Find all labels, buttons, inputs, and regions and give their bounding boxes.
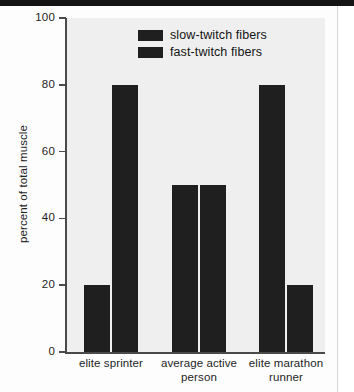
bar xyxy=(112,85,138,352)
y-tick-label-wrap: 0 xyxy=(0,346,55,358)
legend-swatch-icon xyxy=(138,47,163,58)
x-axis-label: elite marathonrunner xyxy=(226,357,346,384)
x-axis-label-line: elite marathon xyxy=(226,357,346,371)
y-axis-title: percent of total muscle xyxy=(17,114,29,254)
page-margin xyxy=(339,6,354,392)
y-tick-mark xyxy=(59,284,66,286)
legend-label: slow-twitch fibers xyxy=(170,29,267,42)
bar-chart-figure: 020406080100 percent of total muscle slo… xyxy=(0,6,337,392)
bar xyxy=(84,285,110,352)
bar xyxy=(200,185,226,352)
legend-item: slow-twitch fibers xyxy=(138,27,267,43)
x-axis-label-line: runner xyxy=(226,371,346,385)
y-tick-mark xyxy=(59,84,66,86)
y-tick-mark xyxy=(59,351,66,353)
bar xyxy=(259,85,285,352)
y-tick-label-wrap: 20 xyxy=(0,279,55,291)
chart-legend: slow-twitch fibersfast-twitch fibers xyxy=(138,27,267,61)
y-tick-label: 0 xyxy=(0,346,55,358)
legend-item: fast-twitch fibers xyxy=(138,44,267,60)
y-tick-label: 100 xyxy=(0,12,55,24)
y-tick-mark xyxy=(59,151,66,153)
page-edge-line xyxy=(337,6,338,392)
y-tick-label: 80 xyxy=(0,79,55,91)
y-tick-label-wrap: 80 xyxy=(0,79,55,91)
y-tick-mark xyxy=(59,17,66,19)
y-tick-label: 20 xyxy=(0,279,55,291)
legend-label: fast-twitch fibers xyxy=(170,46,262,59)
bar xyxy=(172,185,198,352)
legend-swatch-icon xyxy=(138,30,163,41)
y-axis-line xyxy=(65,18,67,353)
y-tick-mark xyxy=(59,218,66,220)
y-tick-label-wrap: 100 xyxy=(0,12,55,24)
chart-page: 020406080100 percent of total muscle slo… xyxy=(0,0,354,392)
x-axis-line xyxy=(65,352,325,354)
bar xyxy=(287,285,313,352)
